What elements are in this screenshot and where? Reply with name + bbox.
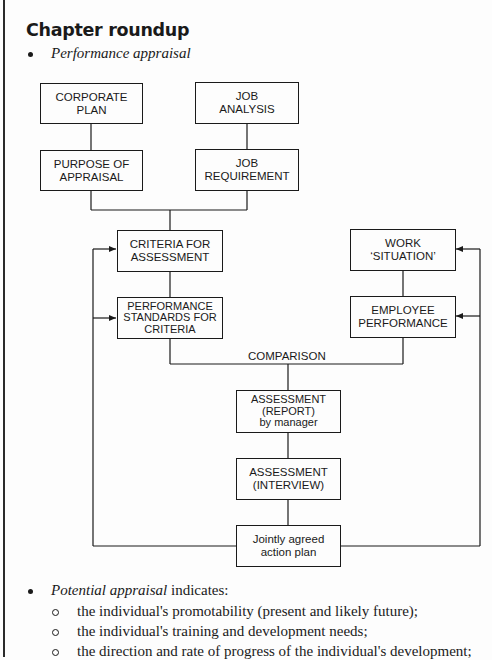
box-corporate-plan: CORPORATE PLAN xyxy=(40,83,143,124)
box-jointly-agreed-action-plan: Jointly agreed action plan xyxy=(236,525,341,567)
bullet-dot-icon xyxy=(28,589,33,594)
box-assessment-interview: ASSESSMENT (INTERVIEW) xyxy=(236,458,341,500)
comparison-label: COMPARISON xyxy=(248,350,326,362)
box-purpose-of-appraisal: PURPOSE OF APPRAISAL xyxy=(40,150,143,191)
sub-bullet-text: the individual's promotability (present … xyxy=(77,603,418,620)
bullet-text: Potential appraisal indicates: xyxy=(51,582,228,599)
box-assessment-report: ASSESSMENT (REPORT) by manager xyxy=(236,390,341,433)
box-criteria-for-assessment: CRITERIA FOR ASSESSMENT xyxy=(117,230,223,272)
box-employee-performance: EMPLOYEE PERFORMANCE xyxy=(350,296,456,338)
box-performance-standards: PERFORMANCE STANDARDS FOR CRITERIA xyxy=(117,297,223,339)
hollow-circle-bullet-icon xyxy=(52,649,59,656)
potential-appraisal-rest: indicates: xyxy=(167,582,228,598)
sub-bullet-text: the direction and rate of progress of th… xyxy=(77,643,472,660)
box-job-analysis: JOB ANALYSIS xyxy=(195,82,299,124)
hollow-circle-bullet-icon xyxy=(52,609,59,616)
hollow-circle-bullet-icon xyxy=(52,629,59,636)
box-work-situation: WORK ‘SITUATION’ xyxy=(350,229,456,271)
potential-appraisal-term: Potential appraisal xyxy=(51,582,167,598)
box-job-requirement: JOB REQUIREMENT xyxy=(195,149,299,191)
sub-bullet-text: the individual's training and developmen… xyxy=(77,623,368,640)
